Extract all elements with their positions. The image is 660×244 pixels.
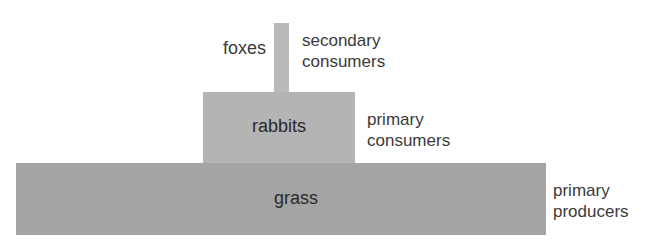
rabbits-label: rabbits [252, 116, 306, 137]
foxes-bar [274, 23, 289, 92]
primary-consumers-line1: primary [367, 109, 450, 130]
secondary-consumers-label: secondary consumers [302, 30, 385, 72]
secondary-label-line2: consumers [302, 51, 385, 72]
secondary-label-line1: secondary [302, 30, 385, 51]
primary-producers-label: primary producers [553, 180, 629, 222]
grass-bar: grass [16, 163, 546, 235]
producers-line2: producers [553, 201, 629, 222]
foxes-label: foxes [223, 38, 266, 59]
rabbits-bar: rabbits [203, 92, 355, 163]
primary-consumers-line2: consumers [367, 130, 450, 151]
producers-line1: primary [553, 180, 629, 201]
primary-consumers-label: primary consumers [367, 109, 450, 151]
grass-label: grass [274, 188, 318, 209]
